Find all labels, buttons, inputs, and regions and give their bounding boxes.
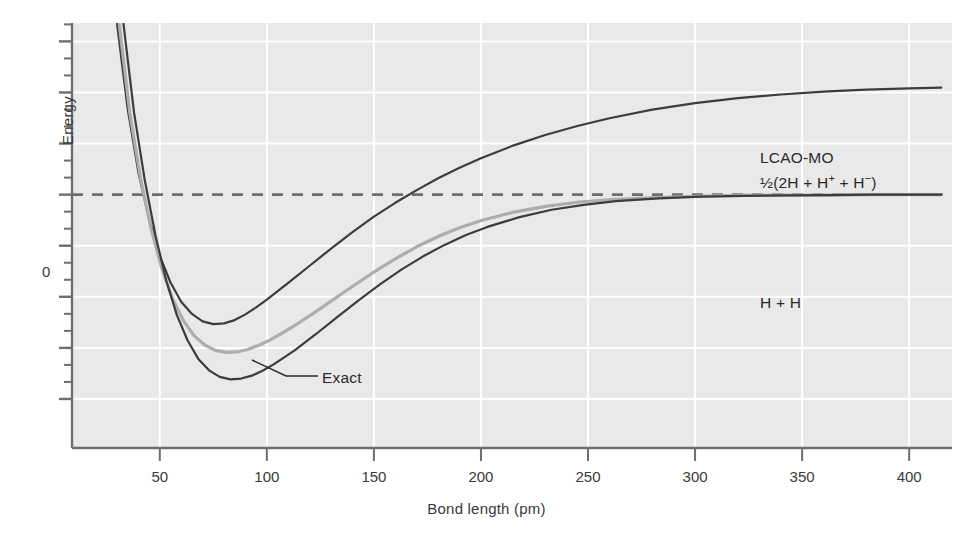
x-tick-label-250: 250 — [558, 468, 618, 485]
exact-leader-line — [252, 360, 318, 376]
x-tick-label-150: 150 — [344, 468, 404, 485]
x-tick-label-350: 350 — [772, 468, 832, 485]
data-curves — [117, 23, 941, 379]
axis-ticks — [59, 24, 909, 461]
annotation-lcao-mo-fragments: ½(2H + H+ + H−) — [760, 172, 877, 192]
axis-lines — [72, 23, 952, 448]
annotation-h-plus-h: H + H — [760, 294, 801, 312]
frag-mid: + H — [835, 174, 865, 191]
frag-suffix: ) — [871, 174, 876, 191]
x-tick-label-400: 400 — [879, 468, 939, 485]
x-axis-label: Bond length (pm) — [0, 500, 973, 517]
y-axis-label: Energy — [59, 66, 76, 176]
frag-prefix: ½(2H + H — [760, 174, 828, 191]
frag-sup-plus: + — [828, 172, 835, 184]
annotation-lcao-mo: LCAO-MO — [760, 149, 834, 167]
x-tick-label-50: 50 — [130, 468, 190, 485]
chart-figure: Energy Bond length (pm) 0 50100150200250… — [0, 0, 973, 543]
chart-canvas — [0, 0, 973, 543]
gridlines — [72, 23, 952, 448]
x-tick-label-100: 100 — [237, 468, 297, 485]
x-tick-label-200: 200 — [451, 468, 511, 485]
x-tick-label-300: 300 — [665, 468, 725, 485]
y-tick-label-zero: 0 — [42, 263, 50, 280]
annotation-exact: Exact — [322, 369, 362, 387]
